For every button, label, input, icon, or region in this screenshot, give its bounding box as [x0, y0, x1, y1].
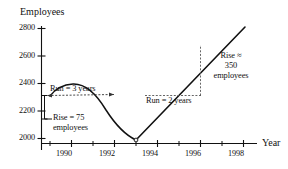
- run-3-years-arrowhead-left: [47, 94, 52, 98]
- y-tick-label-2600: 2600: [4, 52, 35, 61]
- curve-minimum-marker: [134, 138, 138, 142]
- y-tick-label-2400: 2400: [4, 79, 35, 88]
- x-tick-label-1996: 1996: [185, 150, 216, 159]
- annotation-rise-75-line2: employees: [53, 124, 88, 133]
- annotation-run-3-years: Run = 3 years: [50, 85, 96, 94]
- annotation-rise-350-line1: Rise ≈: [204, 52, 258, 61]
- rise-75-bracket: [42, 96, 48, 120]
- employees-vs-year-chart: Employees Year 2800 2600 2400 2200 2000 …: [0, 0, 288, 169]
- annotation-rise-350-line3: employees: [204, 72, 258, 81]
- x-axis-title: Year: [262, 138, 280, 149]
- x-tick-label-1990: 1990: [56, 150, 87, 159]
- annotation-rise-350-line2: 350: [204, 62, 258, 71]
- annotation-rise-75-line1: Rise = 75: [53, 114, 84, 123]
- series-employees-rising-line: [136, 27, 245, 140]
- run-3-years-arrowhead-right: [109, 93, 114, 97]
- x-tick-label-1992: 1992: [99, 150, 130, 159]
- annotation-run-2-years: Run = 2 years: [146, 97, 192, 106]
- x-tick-label-1994: 1994: [142, 150, 173, 159]
- y-tick-label-2000: 2000: [4, 134, 35, 143]
- y-tick-label-2800: 2800: [4, 24, 35, 33]
- y-tick-label-2200: 2200: [4, 107, 35, 116]
- x-tick-label-1998: 1998: [228, 150, 259, 159]
- y-axis-title: Employees: [20, 7, 64, 18]
- chart-canvas: [0, 0, 288, 169]
- run-3-years-dashed-line: [48, 95, 114, 96]
